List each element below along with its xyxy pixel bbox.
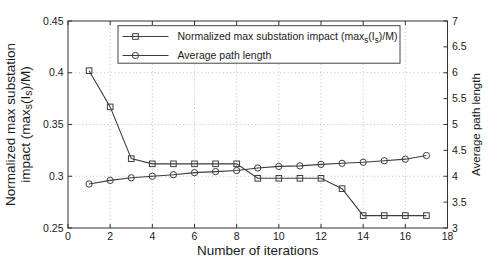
x-tick-label: 6 (192, 230, 198, 242)
x-tick-label: 12 (315, 230, 327, 242)
legend: Normalized max substation impact (maxs(I… (118, 26, 400, 64)
left-tick-label: 0.35 (43, 118, 64, 130)
series-line (89, 71, 426, 216)
x-tick-label: 2 (107, 230, 113, 242)
series-line (89, 156, 426, 184)
x-tick-label: 0 (65, 230, 71, 242)
left-axis-title-line-2: impact (maxs(Is)/M) (18, 66, 35, 182)
series-average-path-length (86, 152, 430, 187)
legend-entry-label: Average path length (178, 49, 272, 61)
right-tick-label: 4 (452, 170, 458, 182)
right-tick-label: 6 (452, 66, 458, 78)
line-chart: 0246810121416180.250.30.350.40.4533.544.… (0, 0, 498, 266)
square-marker-icon (86, 68, 92, 74)
right-tick-label: 6.5 (452, 40, 467, 52)
left-tick-label: 0.4 (49, 66, 64, 78)
x-tick-label: 16 (399, 230, 411, 242)
right-tick-label: 5 (452, 118, 458, 130)
right-axis-title: Average path length (470, 73, 482, 176)
right-tick-label: 3.5 (452, 196, 467, 208)
x-tick-label: 8 (234, 230, 240, 242)
right-tick-label: 5.5 (452, 92, 467, 104)
left-tick-label: 0.45 (43, 15, 64, 27)
x-tick-label: 14 (357, 230, 369, 242)
x-tick-label: 4 (149, 230, 155, 242)
left-tick-label: 0.3 (49, 170, 64, 182)
left-tick-label: 0.25 (43, 222, 64, 234)
chart-figure: 0246810121416180.250.30.350.40.4533.544.… (0, 0, 498, 266)
x-axis-title: Number of iterations (197, 243, 319, 258)
left-axis-title-line-1: Normalized max substation (3, 43, 18, 206)
x-tick-label: 10 (273, 230, 285, 242)
series-normalized-max-substation-impact (86, 68, 429, 219)
right-tick-label: 3 (452, 222, 458, 234)
right-tick-label: 4.5 (452, 144, 467, 156)
right-tick-label: 7 (452, 15, 458, 27)
